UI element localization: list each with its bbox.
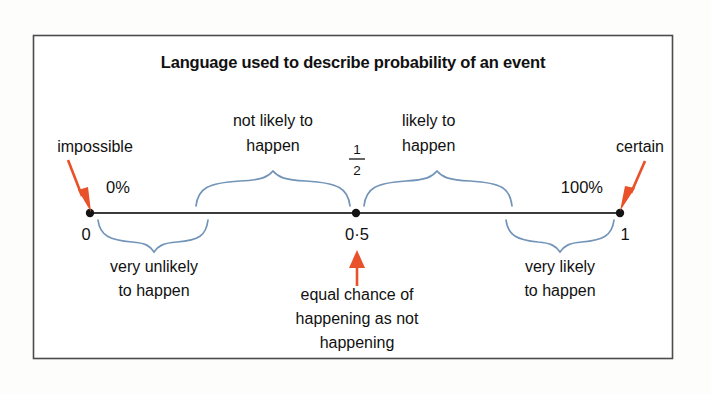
label-very-likely-line1: very likely <box>525 258 595 275</box>
label-very-unlikely-line1: very unlikely <box>110 258 198 275</box>
callout-impossible: impossible <box>57 138 133 155</box>
fraction-numerator: 1 <box>353 142 361 157</box>
figure-canvas: Language used to describe probability of… <box>0 0 711 394</box>
value-point-five: 0·5 <box>345 225 369 243</box>
callout-equal-chance-line1: equal chance of <box>301 286 415 303</box>
callout-certain: certain <box>616 138 664 155</box>
label-very-likely-line2: to happen <box>524 282 595 299</box>
label-likely-line1: likely to <box>402 112 455 129</box>
callout-equal-chance-line3: happening <box>320 334 395 351</box>
value-one: 1 <box>620 225 629 243</box>
label-likely-line2: happen <box>402 137 455 154</box>
probability-number-line-figure: Language used to describe probability of… <box>0 0 711 394</box>
callout-equal-chance-line2: happening as not <box>296 310 419 327</box>
tick-dot-half <box>352 209 360 217</box>
fraction-denominator: 2 <box>353 163 361 178</box>
value-hundred-percent: 100% <box>561 178 604 196</box>
label-not-likely-line2: happen <box>246 137 299 154</box>
tick-dot-one <box>616 209 624 217</box>
value-zero-percent: 0% <box>106 178 130 196</box>
label-very-unlikely-line2: to happen <box>118 282 189 299</box>
label-not-likely-line1: not likely to <box>233 112 313 129</box>
value-zero: 0 <box>81 225 90 243</box>
page-title: Language used to describe probability of… <box>161 53 546 71</box>
